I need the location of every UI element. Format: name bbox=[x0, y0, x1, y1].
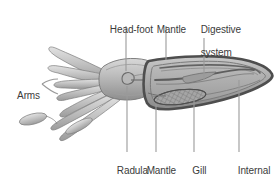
label-internal-shell-line1: Internal bbox=[238, 165, 271, 176]
label-arms-text: Arms bbox=[17, 90, 40, 101]
label-arms: Arms bbox=[2, 78, 40, 113]
tentacle-a-stalk bbox=[46, 116, 57, 124]
label-internal-shell: Internal shell bbox=[227, 153, 275, 187]
radula-buccal-mass bbox=[122, 73, 134, 85]
label-mantle-cavity-line1: Mantle bbox=[147, 165, 176, 176]
label-digestive-system-line1: Digestive bbox=[201, 24, 241, 35]
label-mantle: Mantle bbox=[142, 12, 190, 47]
label-digestive-system-line2: system bbox=[201, 47, 232, 58]
label-mantle-cavity: Mantle cavity bbox=[133, 153, 179, 187]
label-mantle-text: Mantle bbox=[157, 24, 186, 35]
tentacle-a-club bbox=[18, 111, 48, 128]
label-gill: Gill bbox=[178, 153, 210, 187]
squid-anatomy-diagram: Head-foot Mantle Digestive system Arms R… bbox=[0, 0, 279, 187]
label-digestive-system: Digestive system bbox=[190, 12, 252, 70]
label-gill-text: Gill bbox=[192, 165, 206, 176]
